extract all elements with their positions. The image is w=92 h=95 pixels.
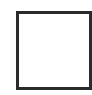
empty-checkbox[interactable] xyxy=(16,11,92,90)
canvas xyxy=(0,0,92,95)
